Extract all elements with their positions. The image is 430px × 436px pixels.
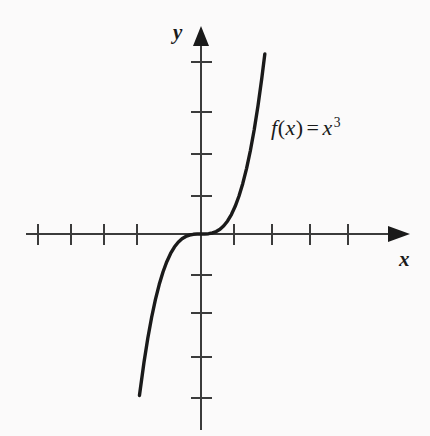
cubic-curve-path (139, 54, 264, 396)
function-name: f (271, 115, 278, 140)
function-base-variable: x (322, 115, 332, 140)
function-exponent: 3 (334, 115, 341, 130)
y-axis-arrowhead (193, 26, 209, 46)
function-equation-label: f(x)=x3 (271, 115, 341, 141)
function-argument: x (285, 115, 295, 140)
function-close-paren: ) (296, 115, 304, 140)
cubic-function-graph-figure: y x f(x)=x3 (0, 0, 430, 436)
equals-sign: = (307, 115, 320, 140)
graph-canvas (0, 0, 430, 436)
x-axis-arrowhead (388, 226, 410, 242)
y-axis-label: y (173, 22, 182, 43)
x-axis-label: x (399, 249, 410, 270)
